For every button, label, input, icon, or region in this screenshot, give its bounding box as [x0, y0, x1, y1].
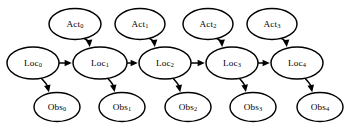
- arrow-head: [175, 84, 181, 92]
- arrow-head: [283, 40, 290, 47]
- diagram-canvas: Act0Act1Act2Act3Loc0Loc1Loc2Loc3Loc4Obs0…: [0, 0, 352, 132]
- edge-loc3-to-loc4: [258, 60, 270, 67]
- edge-loc1-to-obs1: [108, 78, 117, 92]
- arrow-head: [131, 60, 138, 67]
- node-loc2[interactable]: Loc2: [139, 47, 191, 79]
- node-loc4[interactable]: Loc4: [271, 47, 323, 79]
- arrow-head: [110, 84, 117, 92]
- edge-loc0-to-loc1: [59, 60, 72, 67]
- edge-loc4-to-obs4: [305, 78, 314, 92]
- edge-loc0-to-obs0: [41, 78, 50, 92]
- arrow-head: [151, 40, 158, 47]
- edge-act0-to-loc1: [84, 38, 92, 47]
- edge-act3-to-loc4: [281, 38, 289, 47]
- node-obs2[interactable]: Obs2: [165, 93, 211, 122]
- arrow-head: [241, 84, 248, 92]
- arrow-head: [307, 84, 313, 92]
- arrow-head: [44, 84, 50, 92]
- edge-act2-to-loc3: [217, 38, 225, 46]
- edge-loc2-to-obs2: [173, 78, 182, 92]
- node-obs4[interactable]: Obs4: [297, 93, 343, 122]
- arrow-head: [218, 40, 225, 47]
- arrow-head: [198, 60, 205, 67]
- arrow-head: [86, 40, 93, 47]
- node-act3[interactable]: Act3: [247, 9, 297, 40]
- node-obs1[interactable]: Obs1: [99, 93, 145, 122]
- edge-loc2-to-loc3: [191, 60, 205, 67]
- edge-loc1-to-loc2: [127, 60, 138, 67]
- edge-loc3-to-obs3: [239, 78, 248, 92]
- node-loc1[interactable]: Loc1: [73, 47, 127, 79]
- nodes-layer: Act0Act1Act2Act3Loc0Loc1Loc2Loc3Loc4Obs0…: [7, 9, 343, 122]
- node-act1[interactable]: Act1: [115, 9, 165, 40]
- arrow-head: [65, 60, 72, 67]
- arrow-head: [263, 60, 270, 67]
- node-act2[interactable]: Act2: [183, 9, 233, 40]
- node-loc3[interactable]: Loc3: [206, 47, 258, 79]
- node-obs3[interactable]: Obs3: [230, 93, 276, 122]
- node-act0[interactable]: Act0: [49, 9, 101, 40]
- edge-act1-to-loc2: [149, 38, 157, 47]
- node-obs0[interactable]: Obs0: [34, 93, 80, 122]
- dbn-diagram: Act0Act1Act2Act3Loc0Loc1Loc2Loc3Loc4Obs0…: [0, 0, 352, 132]
- node-loc0[interactable]: Loc0: [7, 47, 59, 79]
